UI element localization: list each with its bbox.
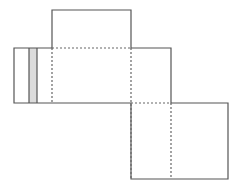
shaded-face bbox=[29, 48, 37, 103]
cube-net-diagram bbox=[0, 0, 234, 187]
net-outline bbox=[14, 10, 228, 179]
fold-lines bbox=[52, 48, 171, 179]
cube-net-svg bbox=[0, 0, 234, 187]
